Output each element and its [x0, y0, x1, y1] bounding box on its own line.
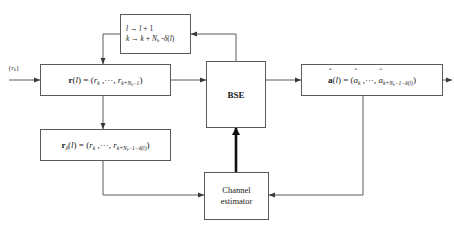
delayed-received-vector-block: rδ(l) = (rk ,···, rk+Nb−1−δ(l))	[40, 129, 171, 161]
index-update-block: l → l + 1 k → k + Nb -δ(l)	[120, 14, 191, 54]
symbol-estimate-equation: ˆa(l) = (ˆak ,···, ˆak+Nb−1−δ(l))	[328, 74, 416, 86]
index-update-line-2: k → k + Nb -δ(l)	[126, 34, 174, 44]
channel-estimator-line-2: estimator	[221, 196, 253, 207]
index-update-line-1: l → l + 1	[126, 24, 153, 34]
input-signal-label: {rk}	[8, 64, 19, 72]
diagram-canvas: {rk} l → l + 1 k → k + Nb -δ(l) r(l) = (…	[0, 0, 454, 228]
wire-bse-to-index-update	[191, 34, 236, 61]
wire-delayed-to-estimator	[103, 161, 204, 195]
channel-estimator-block: Channel estimator	[204, 172, 269, 220]
received-vector-equation: r(l) = (rk ,···, rk+Nb−1)	[69, 74, 143, 86]
received-vector-block: r(l) = (rk ,···, rk+Nb−1)	[40, 64, 171, 96]
channel-estimator-line-1: Channel	[222, 185, 250, 196]
delayed-vector-equation: rδ(l) = (rk ,···, rk+Nb−1−δ(l))	[61, 139, 149, 151]
symbol-estimate-block: ˆa(l) = (ˆak ,···, ˆak+Nb−1−δ(l))	[301, 64, 443, 96]
wire-estimate-to-estimator	[269, 96, 363, 195]
bse-block: BSE	[206, 61, 266, 128]
wire-index-update-to-received	[103, 34, 120, 64]
bse-label: BSE	[227, 90, 244, 100]
